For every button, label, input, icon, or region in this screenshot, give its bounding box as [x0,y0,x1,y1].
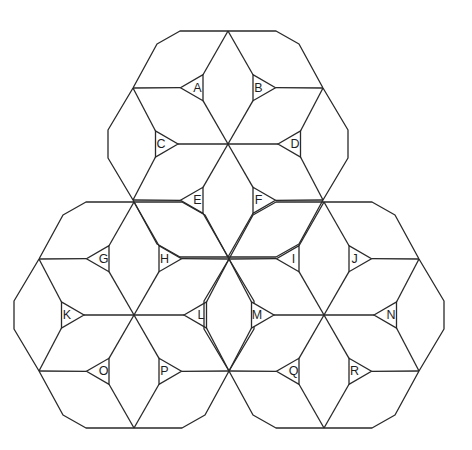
spoke-line [299,315,324,358]
spoke-line [109,272,134,315]
triangle-piece-j[interactable]: J [349,246,372,272]
rhombus-edge [301,88,324,131]
spoke-line [134,315,159,358]
rhombus-edge [109,384,134,428]
triangle-piece-d[interactable]: D [278,131,301,157]
triangle-label: B [254,81,262,95]
rhombus-edge [299,202,324,246]
rhombus-edge [134,384,159,428]
spoke-line [324,315,349,358]
triangle-label: C [156,137,165,151]
rhombus-edge [301,157,324,200]
triangle-piece-b[interactable]: B [253,75,276,101]
triangle-piece-g[interactable]: G [87,246,110,272]
rhombus-edge [229,259,252,302]
spoke-line [228,101,253,144]
rhombus-edge [299,384,324,428]
rhombus-edge [39,259,62,302]
triangle-shape[interactable] [277,246,300,272]
rhombus-edge [228,213,253,257]
rhombus-edge [324,384,349,428]
triangle-label: P [160,364,168,378]
triangle-label: G [99,252,109,266]
triangle-label: J [351,252,357,266]
triangle-piece-n[interactable]: N [374,302,397,328]
triangle-label: A [193,81,202,95]
tiling-diagram: ABCDEFGHKLOPIJMNQR [0,0,472,450]
rhombus-edge [39,328,62,371]
rhombus-edge [228,31,253,75]
rhombus-edge [203,31,228,75]
triangle-label: K [63,308,72,322]
triangle-label: H [160,252,169,266]
triangle-piece-k[interactable]: K [62,302,85,328]
bottom-left-rosette: GHKLOP [14,202,254,428]
rhombus-edge [397,328,420,371]
triangle-piece-h[interactable]: H [159,246,182,272]
triangle-label: F [255,193,263,207]
triangle-piece-f[interactable]: F [253,187,276,213]
rhombus-edge [109,202,134,246]
spoke-line [228,144,253,187]
triangle-label: R [350,364,359,378]
triangle-piece-i[interactable]: I [277,246,300,272]
triangle-piece-q[interactable]: Q [277,358,300,384]
triangle-label: N [386,308,395,322]
triangle-label: D [290,137,299,151]
spoke-line [299,272,324,315]
triangle-piece-a[interactable]: A [181,75,204,101]
rhombus-edge [324,202,349,246]
spoke-line [203,101,228,144]
spoke-line [134,272,159,315]
triangle-piece-o[interactable]: O [87,358,110,384]
spoke-line [324,272,349,315]
rhombus-edge [397,259,420,302]
triangle-piece-e[interactable]: E [181,187,204,213]
rhombus-edge [229,328,252,371]
spoke-line [203,144,228,187]
triangle-piece-m[interactable]: M [252,302,275,328]
spoke-line [109,315,134,358]
triangle-piece-p[interactable]: P [159,358,182,384]
triangle-label: E [193,193,201,207]
rhombus-edge [133,88,156,131]
triangle-label: Q [289,364,299,378]
triangle-piece-r[interactable]: R [349,358,372,384]
rosettes-group: ABCDEFGHKLOPIJMNQR [14,31,444,428]
rhombus-edge [133,157,156,200]
triangle-label: M [252,308,262,322]
triangle-label: I [292,252,295,266]
triangle-label: O [99,364,109,378]
triangle-piece-l[interactable]: L [184,302,207,328]
rhombus-edge [134,202,159,246]
triangle-piece-c[interactable]: C [156,131,179,157]
